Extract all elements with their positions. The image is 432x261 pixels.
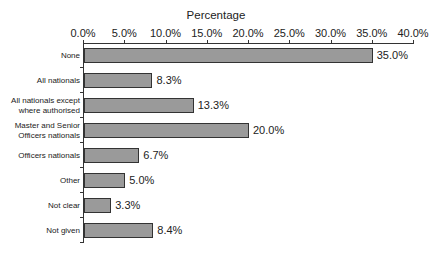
category-label-line: Not clear [48,201,80,211]
category-label: Master and SeniorOfficers nationals [15,121,80,141]
x-tick-label: 30.0% [315,27,346,39]
category-label-line: Officers nationals [18,151,80,161]
category-label: All nationals [37,76,80,86]
bar [84,123,249,138]
y-tick-mark [80,242,84,243]
category-label-line: All nationals [37,76,80,86]
category-label: Not given [46,226,80,236]
category-label-line: Not given [46,226,80,236]
bar [84,223,153,238]
bar [84,148,139,163]
category-label-line: None [61,51,80,61]
bar [84,98,194,113]
bar-value-label: 35.0% [377,49,408,61]
category-label-line: Master and Senior [15,121,80,131]
x-tick-label: 25.0% [274,27,305,39]
y-tick-mark [80,142,84,143]
x-tick-label: 15.0% [191,27,222,39]
category-label-line: Other [60,176,80,186]
category-label: Other [60,176,80,186]
bar-value-label: 6.7% [143,149,168,161]
x-axis-title: Percentage [0,9,432,21]
category-label-line: where authorised [11,106,80,116]
y-tick-mark [80,167,84,168]
x-tick-label: 10.0% [150,27,181,39]
bar-value-label: 20.0% [253,124,284,136]
category-label-line: Officers nationals [15,131,80,141]
bar-value-label: 8.3% [156,74,181,86]
y-tick-mark [80,67,84,68]
bar [84,48,373,63]
category-label: None [61,51,80,61]
horizontal-bar-chart: Percentage 0.0%5.0%10.0%15.0%20.0%25.0%3… [0,0,432,261]
bar [84,173,125,188]
y-tick-mark [80,217,84,218]
y-tick-mark [80,92,84,93]
category-label: Officers nationals [18,151,80,161]
x-tick-label: 20.0% [232,27,263,39]
y-tick-mark [80,117,84,118]
x-axis-line [83,43,413,44]
category-label: All nationals exceptwhere authorised [11,96,80,116]
category-label: Not clear [48,201,80,211]
bar [84,73,152,88]
bar-value-label: 13.3% [198,99,229,111]
bar-value-label: 8.4% [157,224,182,236]
x-tick-mark [413,40,414,44]
bar [84,198,111,213]
category-label-line: All nationals except [11,96,80,106]
bar-value-label: 3.3% [115,199,140,211]
x-tick-label: 40.0% [397,27,428,39]
x-tick-label: 35.0% [356,27,387,39]
bar-value-label: 5.0% [129,174,154,186]
y-tick-mark [80,192,84,193]
x-tick-label: 0.0% [70,27,95,39]
x-tick-label: 5.0% [112,27,137,39]
